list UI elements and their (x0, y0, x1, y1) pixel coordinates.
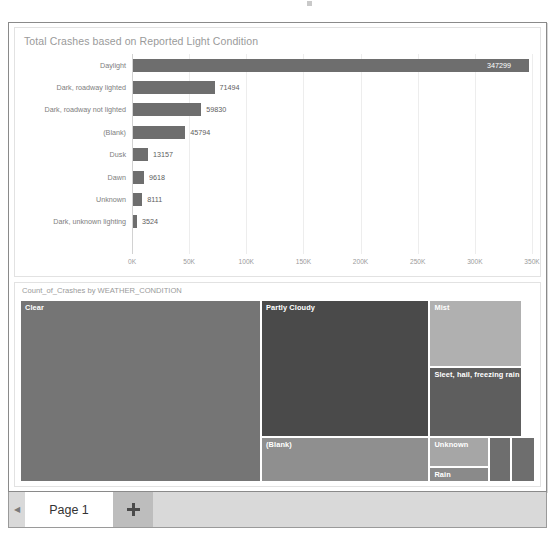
treemap-tile[interactable]: Sleet, hail, freezing rain (429, 367, 522, 437)
bar-value-label: 9618 (149, 173, 165, 182)
treemap-tile[interactable] (511, 437, 535, 482)
page-tab-bar: ◀ Page 1 (8, 492, 547, 528)
bar-category-label: Dark, roadway not lighted (23, 105, 133, 114)
treemap-tile-label: Mist (434, 303, 449, 312)
treemap-tile-label: Sleet, hail, freezing rain (434, 370, 519, 379)
bar-chart-visual[interactable]: Total Crashes based on Reported Light Co… (14, 27, 541, 277)
bar-category-label: Dawn (23, 173, 133, 182)
bar-value-label: 8111 (147, 195, 162, 204)
bar-fill[interactable] (133, 148, 148, 161)
bar-row[interactable]: Dawn9618 (23, 166, 532, 188)
treemap-tile[interactable]: Clear (20, 300, 261, 482)
bar-category-label: Daylight (23, 61, 133, 70)
x-axis-tick-label: 0K (128, 258, 136, 265)
bar-row[interactable]: Daylight347299 (23, 54, 532, 76)
bar-track: 45794 (133, 121, 532, 143)
x-axis-tick-label: 150K (296, 258, 311, 265)
add-page-button[interactable] (113, 492, 153, 527)
bar-track: 9618 (133, 166, 532, 188)
treemap-tile[interactable]: Unknown (429, 437, 489, 466)
plus-icon (126, 502, 141, 517)
x-axis-tick-label: 350K (524, 258, 539, 265)
bar-value-label: 71494 (220, 83, 240, 92)
treemap-tile[interactable]: Partly Cloudy (261, 300, 429, 437)
bar-row[interactable]: Dark, unknown lighting3524 (23, 211, 532, 233)
treemap-tile-label: Rain (434, 470, 450, 479)
x-axis-tick-label: 200K (353, 258, 368, 265)
bar-row[interactable]: Unknown8111 (23, 188, 532, 210)
bar-fill[interactable] (133, 215, 137, 228)
bar-track: 347299 (133, 54, 532, 76)
bar-category-label: (Blank) (23, 128, 133, 137)
bar-chart-title: Total Crashes based on Reported Light Co… (24, 35, 258, 47)
bar-value-label: 59830 (206, 105, 226, 114)
bar-fill[interactable] (133, 171, 144, 184)
treemap-tile[interactable] (489, 437, 511, 482)
treemap-tile[interactable]: (Blank) (261, 437, 429, 482)
bar-value-label: 3524 (142, 217, 158, 226)
treemap-title: Count_of_Crashes by WEATHER_CONDITION (22, 286, 182, 295)
treemap-tile-label: Clear (25, 303, 44, 312)
window-top-marker (307, 1, 312, 6)
treemap-area: ClearPartly Cloudy(Blank)MistSleet, hail… (20, 300, 535, 482)
bar-row[interactable]: Dusk13157 (23, 144, 532, 166)
bar-fill[interactable] (133, 193, 142, 206)
treemap-tile[interactable]: Mist (429, 300, 522, 367)
bar-category-label: Unknown (23, 195, 133, 204)
bar-track: 59830 (133, 99, 532, 121)
bar-category-label: Dark, unknown lighting (23, 217, 133, 226)
treemap-visual[interactable]: Count_of_Crashes by WEATHER_CONDITION Cl… (14, 282, 541, 487)
bar-row[interactable]: Dark, roadway lighted71494 (23, 76, 532, 98)
treemap-tile[interactable]: Rain (429, 467, 489, 482)
treemap-tile-label: Unknown (434, 440, 468, 449)
x-axis-tick-label: 100K (239, 258, 254, 265)
bar-chart-x-axis: 0K50K100K150K200K250K300K350K (132, 258, 532, 272)
treemap-tile-label: Partly Cloudy (266, 303, 315, 312)
page-tab-page-1[interactable]: Page 1 (25, 492, 113, 527)
bar-fill[interactable] (133, 126, 185, 139)
bar-value-label: 13157 (153, 150, 173, 159)
bar-category-label: Dusk (23, 150, 133, 159)
treemap-tile-label: (Blank) (266, 440, 292, 449)
bar-fill[interactable] (133, 81, 215, 94)
bar-row[interactable]: (Blank)45794 (23, 121, 532, 143)
x-axis-tick-label: 300K (467, 258, 482, 265)
bar-value-label: 45794 (190, 128, 210, 137)
bar-value-label: 347299 (487, 61, 511, 70)
bar-track: 8111 (133, 188, 532, 210)
bar-track: 13157 (133, 144, 532, 166)
bar-fill[interactable] (133, 103, 201, 116)
bar-fill[interactable] (133, 59, 529, 72)
bar-category-label: Dark, roadway lighted (23, 83, 133, 92)
x-axis-tick-label: 250K (410, 258, 425, 265)
report-canvas: Total Crashes based on Reported Light Co… (8, 22, 547, 492)
bar-chart-plot: Daylight347299Dark, roadway lighted71494… (23, 54, 532, 270)
chevron-left-icon[interactable]: ◀ (9, 492, 25, 527)
bar-track: 71494 (133, 76, 532, 98)
bar-row[interactable]: Dark, roadway not lighted59830 (23, 99, 532, 121)
x-axis-tick-label: 50K (183, 258, 195, 265)
bar-track: 3524 (133, 211, 532, 233)
gridline (532, 54, 533, 254)
